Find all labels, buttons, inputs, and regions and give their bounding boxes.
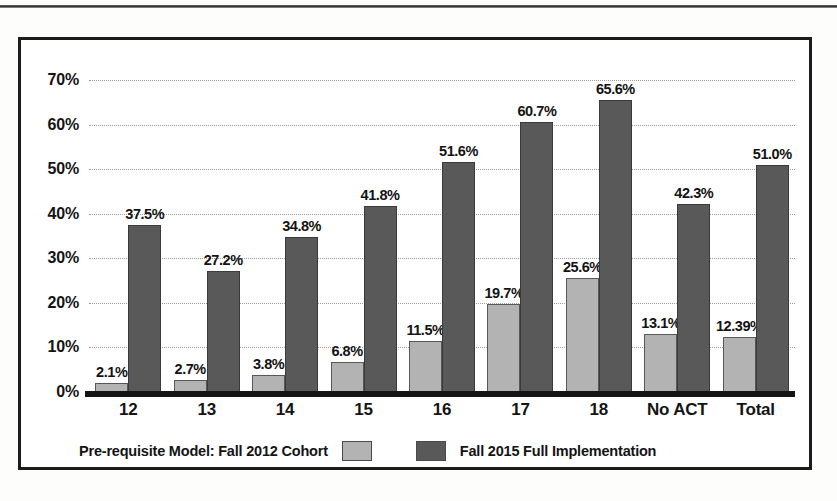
bar[interactable] [207, 271, 240, 392]
bar-container: 51.0% [756, 165, 789, 392]
chart-legend: Pre-requisite Model: Fall 2012 CohortFal… [69, 438, 781, 464]
bar-container: 25.6% [566, 278, 599, 392]
bar-group-16: 11.5%51.6% [403, 58, 481, 392]
plot-area: 0%10%20%30%40%50%60%70% 2.1%37.5%2.7%27.… [89, 58, 795, 392]
bar-container: 42.3% [677, 204, 710, 392]
legend-entry-full-implementation[interactable]: Fall 2015 Full Implementation [416, 441, 656, 461]
bar-value-label: 11.5% [406, 322, 444, 338]
bar-value-label: 42.3% [674, 185, 713, 201]
bar-group-total: 12.39%51.0% [717, 58, 795, 392]
bar[interactable] [677, 204, 710, 392]
horizontal-rule [0, 5, 837, 8]
bar-value-label: 37.5% [125, 206, 164, 222]
bar-value-label: 27.2% [204, 252, 243, 268]
bar-group-14: 3.8%34.8% [246, 58, 324, 392]
x-axis-tick-label: Total [717, 400, 795, 420]
bar-value-label: 25.6% [563, 259, 602, 275]
bar-group-17: 19.7%60.7% [481, 58, 559, 392]
bar[interactable] [487, 304, 520, 392]
x-axis-tick-label: 14 [246, 400, 324, 420]
bar[interactable] [756, 165, 789, 392]
bar-container: 6.8% [331, 362, 364, 392]
x-axis-tick-labels: 12131415161718No ACTTotal [89, 400, 795, 420]
bar[interactable] [409, 341, 442, 392]
bar-container: 27.2% [207, 271, 240, 392]
bar-groups: 2.1%37.5%2.7%27.2%3.8%34.8%6.8%41.8%11.5… [89, 58, 795, 392]
bar-container: 11.5% [409, 341, 442, 392]
bar-value-label: 51.0% [753, 146, 792, 162]
bar[interactable] [599, 100, 632, 392]
y-axis-tick-label: 60% [48, 116, 79, 134]
x-axis-tick-label: 17 [481, 400, 559, 420]
bar[interactable] [644, 334, 677, 392]
bar-group-18: 25.6%65.6% [560, 58, 638, 392]
bar-value-label: 60.7% [517, 103, 556, 119]
bar-value-label: 41.8% [361, 187, 400, 203]
bar-container: 34.8% [285, 237, 318, 392]
bar[interactable] [128, 225, 161, 392]
x-axis-tick-label: 16 [403, 400, 481, 420]
y-axis-tick-label: 30% [48, 249, 79, 267]
bar-value-label: 2.7% [175, 361, 206, 377]
y-axis-tick-label: 50% [48, 160, 79, 178]
y-axis-tick-label: 20% [48, 294, 79, 312]
y-axis-tick-label: 10% [48, 338, 79, 356]
chart-figure-frame: 0%10%20%30%40%50%60%70% 2.1%37.5%2.7%27.… [18, 37, 812, 470]
bar[interactable] [723, 337, 756, 392]
bar-container: 13.1% [644, 334, 677, 392]
bar[interactable] [442, 162, 475, 392]
bar-container: 65.6% [599, 100, 632, 392]
y-axis-tick-label: 70% [48, 71, 79, 89]
bar-container: 41.8% [364, 206, 397, 392]
bar[interactable] [285, 237, 318, 392]
x-axis-tick-label: 18 [560, 400, 638, 420]
legend-label: Fall 2015 Full Implementation [460, 443, 656, 459]
y-axis-tick-label: 0% [56, 383, 79, 401]
bar-container: 60.7% [520, 122, 553, 392]
x-axis-tick-label: 13 [167, 400, 245, 420]
bar-group-13: 2.7%27.2% [167, 58, 245, 392]
bar-value-label: 6.8% [331, 343, 362, 359]
bar-group-12: 2.1%37.5% [89, 58, 167, 392]
bar-group-15: 6.8%41.8% [324, 58, 402, 392]
bar-container: 19.7% [487, 304, 520, 392]
bar-group-no-act: 13.1%42.3% [638, 58, 716, 392]
bar-container: 51.6% [442, 162, 475, 392]
bar[interactable] [364, 206, 397, 392]
bar-container: 12.39% [723, 337, 756, 392]
bar-container: 3.8% [252, 375, 285, 392]
scanned-page: 0%10%20%30%40%50%60%70% 2.1%37.5%2.7%27.… [0, 0, 837, 501]
x-axis-tick-label: 12 [89, 400, 167, 420]
y-axis-tick-label: 40% [48, 205, 79, 223]
x-axis-baseline [85, 391, 795, 397]
legend-swatch-icon [342, 441, 372, 461]
bar-value-label: 2.1% [96, 364, 127, 380]
bar-value-label: 51.6% [439, 143, 478, 159]
legend-label: Pre-requisite Model: Fall 2012 Cohort [79, 443, 328, 459]
bar-value-label: 34.8% [282, 218, 321, 234]
bar-value-label: 19.7% [484, 285, 523, 301]
x-axis-tick-label: 15 [324, 400, 402, 420]
bar[interactable] [331, 362, 364, 392]
bar[interactable] [520, 122, 553, 392]
legend-swatch-icon [416, 441, 446, 461]
x-axis-tick-label: No ACT [638, 400, 716, 420]
legend-entry-prerequisite-model[interactable]: Pre-requisite Model: Fall 2012 Cohort [79, 441, 372, 461]
bar[interactable] [566, 278, 599, 392]
bar-value-label: 65.6% [596, 81, 635, 97]
bar-container: 37.5% [128, 225, 161, 392]
bar-value-label: 13.1% [641, 315, 680, 331]
bar[interactable] [252, 375, 285, 392]
bar-value-label: 3.8% [253, 356, 284, 372]
